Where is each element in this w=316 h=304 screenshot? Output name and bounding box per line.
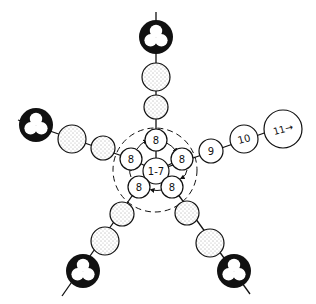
- stippled-node-lowerright-outer: [196, 229, 224, 257]
- ring-node-label: 8: [153, 135, 159, 146]
- diagram-canvas: 1-7 8 8 8 8 8 9 10 11→: [0, 0, 316, 304]
- stippled-node-left-inner: [91, 136, 115, 160]
- trefoil-icon-lowerleft: [66, 254, 100, 288]
- stippled-node-lowerleft-outer: [91, 227, 119, 255]
- trefoil-icon-left: [19, 108, 53, 142]
- connectors: [18, 12, 270, 296]
- stippled-node-top-inner: [144, 95, 168, 119]
- pentamer-diagram: 1-7 8 8 8 8 8 9 10 11→: [0, 0, 316, 304]
- stippled-node-lowerleft-inner: [110, 202, 134, 226]
- trefoil-icon-lowerright: [217, 254, 251, 288]
- arm-node-label: 9: [208, 146, 214, 157]
- trefoil-icon-top: [139, 20, 173, 54]
- stippled-node-lowerright-inner: [175, 201, 199, 225]
- ring-node-label: 8: [136, 182, 142, 193]
- ring-node-label: 8: [128, 154, 134, 165]
- center-node-label: 1-7: [148, 166, 164, 177]
- ring-node-label: 8: [179, 154, 185, 165]
- ring-node-label: 8: [169, 182, 175, 193]
- stippled-node-left-outer: [58, 125, 86, 153]
- stippled-node-top-outer: [142, 63, 170, 91]
